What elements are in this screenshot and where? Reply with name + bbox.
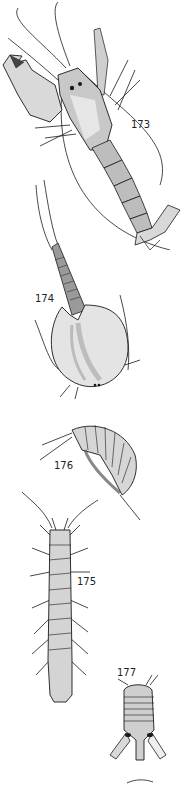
illustration-plate: 173 bbox=[0, 0, 189, 785]
tadpole-shrimp-drawing bbox=[0, 175, 189, 410]
small-isopod-drawing bbox=[100, 655, 189, 785]
figure-number-175: 175 bbox=[77, 576, 96, 587]
figure-number-174: 174 bbox=[35, 293, 54, 304]
figure-number-173: 173 bbox=[131, 119, 150, 130]
figure-number-176: 176 bbox=[54, 460, 73, 471]
bottom-stroke bbox=[125, 778, 155, 784]
figure-174-tadpole-shrimp: 174 bbox=[0, 175, 189, 410]
figure-number-177: 177 bbox=[117, 667, 136, 678]
figure-177-small-isopod: 177 bbox=[100, 655, 189, 785]
